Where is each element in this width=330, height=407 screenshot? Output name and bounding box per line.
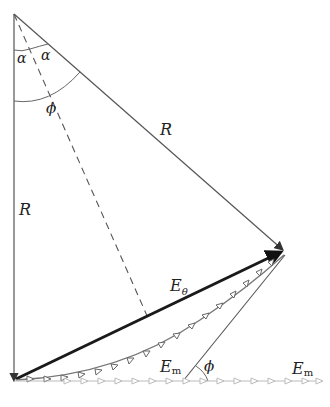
- e-theta-label: Eθ: [169, 276, 188, 297]
- em-chain-label: Em: [159, 357, 182, 376]
- phi-top-label: ϕ: [46, 99, 56, 117]
- geometry-diagram: α α ϕ R R Eθ Em ϕ Em: [0, 0, 330, 407]
- em-line-main: E: [291, 359, 304, 378]
- em-line-sub: m: [304, 367, 314, 378]
- phi-arc-top: [14, 72, 80, 102]
- e-theta-main: E: [169, 276, 182, 295]
- alpha-left-label: α: [17, 50, 27, 66]
- em-curved-chain-markers: [27, 259, 274, 382]
- em-chain-sub: m: [172, 365, 182, 376]
- e-theta-sub: θ: [182, 286, 188, 297]
- em-chain-main: E: [159, 357, 172, 376]
- em-line-label: Em: [291, 359, 314, 378]
- r-slant-label: R: [159, 120, 172, 139]
- r-vertical-label: R: [18, 200, 31, 219]
- phi-bottom-label: ϕ: [204, 357, 214, 375]
- dashed-bisector-line: [14, 14, 148, 318]
- alpha-right-label: α: [41, 47, 51, 63]
- e-theta-vector: [16, 252, 281, 379]
- slanted-radius-line: [14, 14, 283, 250]
